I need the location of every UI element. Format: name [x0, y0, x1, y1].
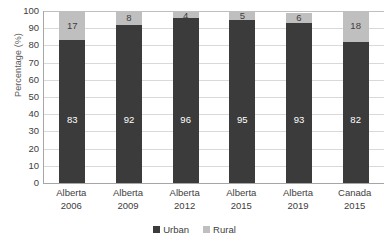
bar-value-label-rural: 18: [343, 21, 369, 31]
gridline: [44, 166, 384, 167]
y-axis-tick-label: 10: [14, 161, 39, 171]
bar-segment-rural[interactable]: 8: [116, 11, 142, 25]
gridline: [44, 131, 384, 132]
bar-value-label-rural: 6: [286, 13, 312, 23]
bar-segment-urban[interactable]: 93: [286, 23, 312, 183]
x-axis-tick-label: Canada2015: [327, 186, 383, 212]
legend-label: Urban: [163, 224, 189, 235]
bar-value-label-urban: 95: [229, 115, 255, 125]
bar-value-label-rural: 8: [116, 13, 142, 23]
bar-value-label-rural: 17: [59, 21, 85, 31]
x-axis-tick-label: Alberta2006: [43, 186, 99, 212]
x-tick-year: 2012: [157, 199, 213, 212]
x-axis-tick-labels: Alberta2006Alberta2009Alberta2012Alberta…: [43, 186, 383, 220]
y-axis-tick-label: 80: [14, 40, 39, 50]
y-axis-tick-label: 40: [14, 109, 39, 119]
bar-group[interactable]: 936: [286, 11, 312, 183]
bar-value-label-rural: 5: [229, 11, 255, 21]
bar-value-label-urban: 83: [59, 115, 85, 125]
y-axis-tick-label: 60: [14, 75, 39, 85]
bar-value-label-urban: 82: [343, 115, 369, 125]
y-axis-tick-label: 0: [14, 178, 39, 188]
bar-group[interactable]: 964: [173, 11, 199, 183]
x-tick-year: 2015: [213, 199, 269, 212]
legend-swatch-icon: [153, 226, 160, 233]
x-tick-region: Alberta: [43, 186, 99, 199]
bar-segment-rural[interactable]: 6: [286, 13, 312, 23]
x-axis-tick-label: Alberta2019: [270, 186, 326, 212]
x-tick-region: Alberta: [100, 186, 156, 199]
bar-group[interactable]: 8218: [343, 11, 369, 183]
x-tick-year: 2015: [327, 199, 383, 212]
x-axis-tick-label: Alberta2012: [157, 186, 213, 212]
x-tick-year: 2006: [43, 199, 99, 212]
y-axis-tick-label: 100: [14, 6, 39, 16]
y-axis-tick-label: 90: [14, 23, 39, 33]
legend-swatch-icon: [203, 226, 210, 233]
bar-segment-rural[interactable]: 18: [343, 11, 369, 42]
stacked-bar-chart: Percentage (%) 1009080706050403020100 83…: [0, 0, 389, 243]
gridline: [44, 45, 384, 46]
bar-group[interactable]: 8317: [59, 11, 85, 183]
chart-legend: UrbanRural: [0, 224, 389, 235]
y-axis-tick-label: 70: [14, 58, 39, 68]
bar-group[interactable]: 928: [116, 11, 142, 183]
gridline: [44, 149, 384, 150]
bar-value-label-urban: 96: [173, 115, 199, 125]
gridline: [44, 97, 384, 98]
bar-segment-rural[interactable]: 5: [229, 11, 255, 20]
legend-label: Rural: [213, 224, 236, 235]
legend-item[interactable]: Urban: [153, 224, 189, 235]
bar-segment-rural[interactable]: 17: [59, 11, 85, 40]
gridline: [44, 80, 384, 81]
bar-segment-rural[interactable]: 4: [173, 11, 199, 18]
y-axis-tick-label: 30: [14, 126, 39, 136]
y-axis-tick-labels: 1009080706050403020100: [14, 0, 39, 243]
y-axis-tick-label: 50: [14, 92, 39, 102]
legend-item[interactable]: Rural: [203, 224, 236, 235]
bar-group[interactable]: 955: [229, 11, 255, 183]
x-tick-region: Alberta: [270, 186, 326, 199]
bar-value-label-urban: 92: [116, 115, 142, 125]
plot-top-border: [44, 11, 384, 12]
y-axis-tick-label: 20: [14, 144, 39, 154]
bar-segment-urban[interactable]: 92: [116, 25, 142, 183]
gridline: [44, 63, 384, 64]
bar-value-label-rural: 4: [173, 11, 199, 21]
bar-value-label-urban: 93: [286, 115, 312, 125]
x-tick-year: 2009: [100, 199, 156, 212]
x-tick-region: Alberta: [213, 186, 269, 199]
gridline: [44, 114, 384, 115]
x-tick-region: Alberta: [157, 186, 213, 199]
bar-segment-urban[interactable]: 96: [173, 18, 199, 183]
x-axis-tick-label: Alberta2009: [100, 186, 156, 212]
bar-segment-urban[interactable]: 82: [343, 42, 369, 183]
gridline: [44, 28, 384, 29]
x-tick-year: 2019: [270, 199, 326, 212]
x-tick-region: Canada: [327, 186, 383, 199]
bar-segment-urban[interactable]: 83: [59, 40, 85, 183]
plot-area: 83179289649559368218: [43, 11, 384, 184]
bar-segment-urban[interactable]: 95: [229, 20, 255, 183]
x-axis-tick-label: Alberta2015: [213, 186, 269, 212]
